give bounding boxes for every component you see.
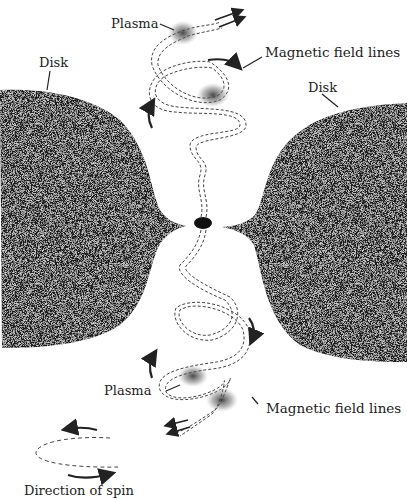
spin-arrow-top-icon	[67, 428, 97, 430]
central-object	[194, 217, 212, 229]
jet-diagram	[0, 0, 407, 499]
label-magnetic-field-lines-top: Magnetic field lines	[265, 46, 400, 60]
eject-bottom-2-icon	[170, 427, 190, 433]
plasma-blob-top-1	[168, 21, 198, 45]
label-direction-of-spin: Direction of spin	[24, 484, 134, 497]
plasma-blob-top-2	[197, 83, 229, 107]
eject-top-1-icon	[215, 11, 240, 20]
eject-bottom-1-icon	[168, 420, 188, 425]
arrow-top-left-icon	[149, 103, 152, 128]
plasma-blob-bottom-1	[178, 365, 208, 387]
arrow-top-right-icon	[208, 59, 238, 66]
spin-legend-loop	[36, 438, 118, 468]
arrow-bottom-left-icon	[150, 354, 154, 378]
eject-top-2-icon	[219, 18, 242, 27]
label-disk-left: Disk	[39, 56, 68, 69]
label-disk-right: Disk	[308, 81, 337, 94]
disk-left-shape	[0, 90, 186, 348]
disk-right-shape	[222, 103, 407, 362]
label-magnetic-field-lines-bottom: Magnetic field lines	[266, 402, 401, 416]
arrow-bottom-right-icon	[249, 318, 254, 340]
label-plasma-top: Plasma	[111, 17, 158, 30]
magnetic-field-lines-top	[149, 22, 246, 217]
label-plasma-bottom: Plasma	[104, 384, 151, 397]
plasma-blob-bottom-2	[206, 388, 238, 412]
spin-arrow-bottom-icon	[68, 474, 110, 478]
